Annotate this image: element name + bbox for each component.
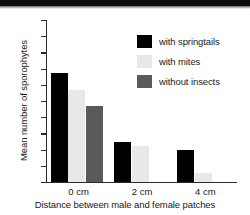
bar	[86, 106, 103, 182]
y-tick-mark	[41, 166, 46, 167]
legend-item: without insects	[137, 72, 220, 91]
y-tick-mark	[41, 133, 46, 134]
y-axis-title: Mean number of sporophytes	[18, 26, 29, 176]
legend-swatch	[137, 55, 152, 68]
bar	[177, 150, 194, 182]
y-tick-mark	[41, 69, 46, 70]
y-tick-mark	[41, 85, 46, 86]
bar-chart-figure: Mean number of sporophytes 012345678910 …	[0, 0, 250, 215]
y-tick-mark	[41, 52, 46, 53]
legend-label: with springtails	[159, 36, 220, 47]
legend-item: with mites	[137, 52, 220, 71]
y-tick-mark	[41, 20, 46, 21]
y-tick-mark	[41, 101, 46, 102]
y-tick-mark	[41, 182, 46, 183]
x-tick-label: 0 cm	[49, 186, 109, 197]
legend-swatch	[137, 75, 152, 88]
scan-artifact-gradient	[0, 6, 250, 9]
x-tick-label: 4 cm	[175, 186, 235, 197]
bar	[195, 173, 212, 182]
x-axis-title: Distance between male and female patches	[0, 199, 250, 210]
bar	[114, 142, 131, 182]
legend-swatch	[137, 35, 152, 48]
y-tick-mark	[41, 117, 46, 118]
y-tick-mark	[41, 150, 46, 151]
legend-item: with springtails	[137, 32, 220, 51]
legend: with springtailswith miteswithout insect…	[137, 32, 220, 92]
x-axis-line	[46, 182, 237, 183]
x-tick-label: 2 cm	[112, 186, 172, 197]
bar	[132, 146, 149, 182]
bar	[51, 73, 68, 182]
legend-label: with mites	[159, 56, 200, 67]
legend-label: without insects	[159, 76, 220, 87]
y-tick-mark	[41, 36, 46, 37]
bar	[68, 90, 85, 182]
